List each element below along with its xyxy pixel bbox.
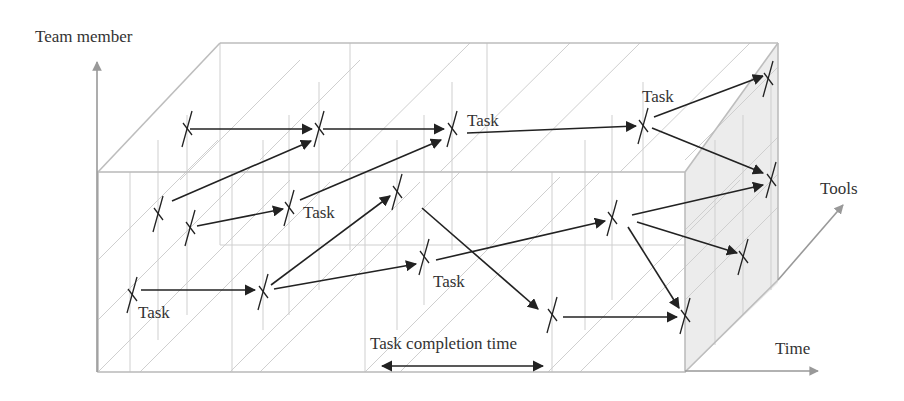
diagram-canvas: Team member Tools Time Task completion t… — [0, 0, 904, 401]
tools-axis-label: Tools — [820, 179, 858, 198]
grid-lines — [98, 43, 778, 372]
tools-axis — [778, 205, 843, 280]
time-axis-label: Time — [775, 339, 810, 358]
cube-outline — [98, 43, 778, 372]
task-label: Task — [467, 111, 499, 130]
task-label: Task — [642, 87, 674, 106]
task-label: Task — [433, 272, 465, 291]
team-member-axis-label: Team member — [35, 27, 133, 46]
completion-time-label: Task completion time — [370, 334, 517, 353]
task-label: Task — [303, 203, 335, 222]
diagram-svg: Team member Tools Time Task completion t… — [0, 0, 904, 401]
task-label: Task — [138, 303, 170, 322]
